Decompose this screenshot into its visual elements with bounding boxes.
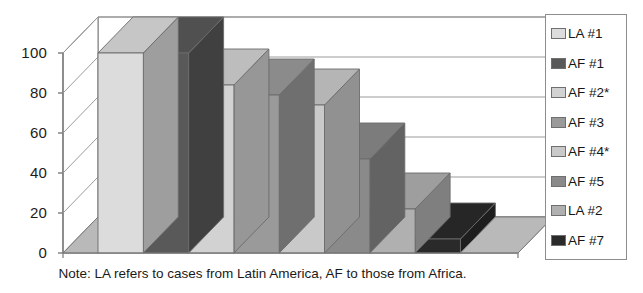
legend-item-af-4[interactable]: AF #4* [551, 142, 626, 162]
y-axis-label-20: 20 [9, 205, 47, 220]
bar-front-face-1 [98, 53, 143, 253]
bar-chart-graphic [0, 0, 540, 262]
legend-item-af-7[interactable]: AF #7 [551, 230, 626, 250]
y-axis-label-0: 0 [9, 245, 47, 260]
legend-swatch-icon [551, 205, 566, 216]
legend-swatch-icon [551, 117, 566, 128]
legend-label: LA #2 [568, 204, 603, 218]
chart-note: Note: LA refers to cases from Latin Amer… [0, 266, 525, 282]
legend-swatch-icon [551, 176, 566, 187]
plot-area [0, 0, 540, 262]
legend-list: LA #1AF #1AF #2*AF #3AF #4*AF #5LA #2AF … [546, 15, 626, 259]
legend-swatch-icon [551, 58, 566, 69]
legend-label: AF #7 [568, 234, 604, 248]
legend-box: LA #1AF #1AF #2*AF #3AF #4*AF #5LA #2AF … [545, 14, 627, 260]
y-axis-label-40: 40 [9, 165, 47, 180]
bar-1 [98, 17, 178, 253]
legend-label: AF #5 [568, 175, 604, 189]
legend-item-af-2[interactable]: AF #2* [551, 83, 626, 103]
legend-label: AF #3 [568, 116, 604, 130]
legend-item-af-1[interactable]: AF #1 [551, 53, 626, 73]
chart-container: 100806040200 LA #1AF #1AF #2*AF #3AF #4*… [0, 0, 643, 293]
legend-label: AF #1 [568, 57, 604, 71]
legend-swatch-icon [551, 146, 566, 157]
y-axis-label-80: 80 [9, 85, 47, 100]
left-wall [63, 17, 98, 253]
bar-side-face-1 [143, 17, 178, 253]
legend-item-af-5[interactable]: AF #5 [551, 171, 626, 191]
legend-label: AF #2* [568, 86, 609, 100]
legend-label: AF #4* [568, 145, 609, 159]
y-axis-label-60: 60 [9, 125, 47, 140]
legend-swatch-icon [551, 87, 566, 98]
legend-swatch-icon [551, 28, 566, 39]
legend-swatch-icon [551, 235, 566, 246]
y-axis-label-100: 100 [9, 45, 47, 60]
legend-item-af-3[interactable]: AF #3 [551, 112, 626, 132]
legend-item-la-1[interactable]: LA #1 [551, 24, 626, 44]
bar-side-face-2 [189, 17, 224, 253]
legend-item-la-2[interactable]: LA #2 [551, 201, 626, 221]
legend-label: LA #1 [568, 27, 603, 41]
